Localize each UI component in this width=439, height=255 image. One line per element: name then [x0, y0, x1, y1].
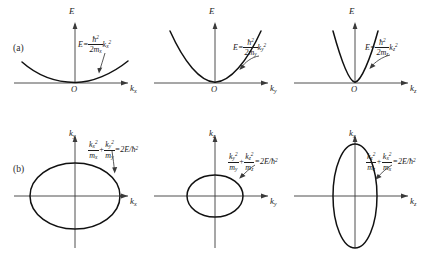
eq-term2-num-exp: 2 — [111, 139, 114, 145]
eq-term1-num-exp: 2 — [235, 151, 238, 157]
axis-label-kx-b3: kx — [349, 129, 356, 139]
axis-label-energy-a1: E — [69, 7, 75, 16]
eq-rhs-exp: 2 — [275, 157, 278, 163]
panel-row-label-b: (b) — [13, 165, 24, 175]
origin-label-a1: O — [71, 85, 77, 94]
eq-term2-numerator-group: ky2 — [104, 140, 115, 151]
axis-label-k-subscript: y — [73, 133, 76, 139]
origin-label-a3: O — [351, 85, 357, 94]
axis-label-kz-b3: kz — [410, 197, 416, 207]
eq-fraction: ħ22my — [243, 38, 257, 58]
eq-denominator: 2m — [244, 48, 254, 57]
eq-denominator-group: 2mx — [88, 45, 102, 55]
panel-row-label-a: (a) — [13, 44, 24, 54]
axis-label-ky-a2: ky — [270, 84, 277, 94]
axis-label-k-subscript: x — [353, 133, 356, 139]
axis-label-k-subscript: z — [414, 88, 416, 94]
eq-term2-denominator-group: mx — [382, 163, 393, 173]
eq-numerator-exponent: 2 — [251, 37, 254, 43]
axis-label-ky-b1: ky — [69, 129, 76, 139]
eq-term1-fraction: ky2my — [228, 152, 239, 173]
equation-a1: E=ħ22mxkx2 — [78, 35, 111, 55]
axis-label-ky-b2: ky — [270, 197, 277, 207]
eq-denominator-group: 2mz — [375, 48, 389, 58]
eq-term1-den-sub: z — [373, 166, 375, 172]
eq-rhs-exp: 2 — [135, 145, 138, 151]
eq-numerator-group: ħ2 — [375, 38, 389, 48]
axis-label-kz-b2: kz — [209, 129, 215, 139]
eq-rhs: 2E/ħ — [260, 157, 275, 166]
eq-numerator-exponent: 2 — [383, 37, 386, 43]
eq-term2-denominator-group: mz — [244, 163, 254, 173]
eq-fraction: ħ22mx — [88, 35, 102, 55]
eq-term1-num-exp: 2 — [373, 151, 376, 157]
eq-term1-num-exp: 2 — [95, 139, 98, 145]
eq-term2-numerator-group: kz2 — [244, 152, 254, 163]
eq-term1-fraction: kx2mx — [88, 140, 99, 161]
eq-term1-den-sub: x — [95, 154, 97, 160]
axis-label-kx-a1: kx — [130, 84, 137, 94]
eq-term2-fraction: kz2mz — [244, 152, 254, 173]
eq-numerator-exponent: 2 — [96, 34, 99, 40]
axis-label-k-subscript: y — [274, 201, 277, 207]
eq-factor-exponent: 2 — [395, 42, 398, 48]
eq-term1-numerator-group: kx2 — [88, 140, 99, 151]
eq-fraction: ħ22mz — [375, 38, 389, 58]
eq-rhs: 2E/ħ — [120, 145, 135, 154]
eq-numerator-group: ħ2 — [88, 35, 102, 45]
axis-label-k-subscript: y — [274, 88, 277, 94]
eq-term2-den-sub: z — [251, 166, 253, 172]
eq-term2-fraction: ky2my — [104, 140, 115, 161]
axis-label-k-subscript: x — [134, 201, 137, 207]
eq-term2-den-sub: y — [111, 154, 113, 160]
origin-label-a2: O — [211, 85, 217, 94]
equation-b2: ky2my+kz2mz=2E/ħ2 — [228, 152, 278, 173]
eq-term1-denominator-group: mx — [88, 151, 99, 161]
eq-denominator-subscript: y — [254, 51, 256, 57]
axis-label-kz-a3: kz — [410, 84, 416, 94]
eq-denominator-subscript: x — [99, 48, 101, 54]
eq-term1-denominator-group: mz — [366, 163, 376, 173]
axis-label-energy-a3: E — [349, 7, 355, 16]
axis-label-energy-a2: E — [209, 7, 215, 16]
eq-rhs: 2E/ħ — [398, 157, 413, 166]
equation-b1: kx2mx+ky2my=2E/ħ2 — [88, 140, 138, 161]
eq-term2-numerator-group: kx2 — [382, 152, 393, 163]
eq-term1-numerator-group: ky2 — [228, 152, 239, 163]
equation-a3: E=ħ22mzkz2 — [365, 38, 398, 58]
eq-term2-fraction: kx2mx — [382, 152, 393, 173]
eq-term1-numerator-group: kz2 — [366, 152, 376, 163]
equation-b3: kz2mz+kx2mx=2E/ħ2 — [366, 152, 416, 173]
eq-denominator-group: 2my — [243, 48, 257, 58]
eq-term2-den-sub: x — [389, 166, 391, 172]
eq-factor-exponent: 2 — [109, 39, 112, 45]
axis-label-k-subscript: z — [414, 201, 416, 207]
physics-figure: (a) E kx O E=ħ22mxkx2 E ky O E=ħ22myky2 … — [0, 0, 439, 255]
eq-denominator-subscript: z — [386, 51, 388, 57]
equation-a2: E=ħ22myky2 — [233, 38, 266, 58]
axis-label-k-subscript: z — [213, 133, 215, 139]
eq-denominator: 2m — [376, 48, 386, 57]
axis-label-kx-b1: kx — [130, 197, 137, 207]
eq-term2-denominator-group: my — [104, 151, 115, 161]
eq-term1-den-sub: y — [235, 166, 237, 172]
eq-term1-denominator-group: my — [228, 163, 239, 173]
axis-label-k-subscript: x — [134, 88, 137, 94]
eq-denominator: 2m — [89, 45, 99, 54]
eq-factor-exponent: 2 — [264, 42, 267, 48]
eq-numerator-group: ħ2 — [243, 38, 257, 48]
eq-rhs-exp: 2 — [413, 157, 416, 163]
eq-term1-fraction: kz2mz — [366, 152, 376, 173]
